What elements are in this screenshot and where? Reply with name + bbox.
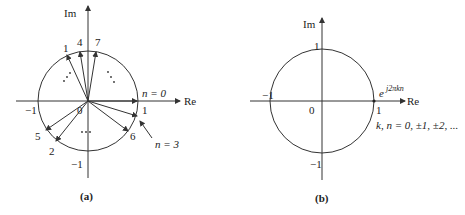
n3-pointer [140, 121, 152, 138]
tick-neg1-re: −1 [262, 89, 274, 101]
vector-4 [80, 52, 88, 101]
tick-pos1-re: 1 [142, 104, 148, 116]
origin-label: 0 [77, 104, 83, 116]
vector-6 [88, 101, 128, 131]
label-vec-6: 6 [130, 130, 136, 142]
caption-a: (a) [80, 190, 93, 203]
label-vec-2: 2 [49, 145, 55, 157]
tick-neg1-re: −1 [25, 104, 37, 116]
vector-n3 [88, 101, 137, 116]
vector-2 [56, 101, 88, 141]
exp-power: j2πkn [385, 84, 404, 93]
label-n0: n = 0 [142, 87, 166, 99]
tick-neg1-im: −1 [71, 158, 83, 170]
index-note: k, n = 0, ±1, ±2, ... [376, 119, 458, 131]
tick-neg1-im: −1 [310, 158, 322, 170]
label-n3: n = 3 [155, 138, 179, 150]
exp-base: e [379, 87, 384, 99]
point-at-one [372, 99, 375, 102]
vector-1 [67, 55, 88, 101]
caption-b: (b) [315, 192, 329, 205]
re-label: Re [184, 95, 196, 107]
panel-b: Im Re 1 −1 −1 1 0 e j2πkn k, n = 0, ±1, … [250, 18, 458, 205]
origin-label: 0 [309, 104, 315, 116]
label-vec-7: 7 [95, 36, 101, 48]
label-vec-5: 5 [35, 130, 41, 142]
im-label: Im [303, 18, 316, 30]
panel-a: Im Re −1 1 −1 0 1 4 7 5 2 6 n = 0 n = 3 … [16, 6, 196, 203]
label-vec-4: 4 [77, 36, 83, 48]
vector-7 [88, 52, 96, 101]
label-vec-1: 1 [63, 42, 69, 54]
tick-pos1-re: 1 [376, 104, 382, 116]
tick-pos1-im: 1 [314, 40, 320, 52]
im-label: Im [64, 7, 77, 19]
unit-circle-figure: Im Re −1 1 −1 0 1 4 7 5 2 6 n = 0 n = 3 … [0, 0, 465, 215]
re-label: Re [407, 95, 419, 107]
